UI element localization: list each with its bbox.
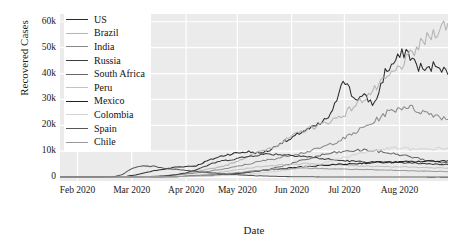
chart-legend: USBrazilIndiaRussiaSouth AfricaPeruMexic… [64,10,151,152]
legend-color-swatch [66,74,88,75]
legend-item[interactable]: Mexico [66,95,145,109]
legend-item[interactable]: Chile [66,135,145,149]
legend-item-label: Peru [94,83,112,93]
legend-color-swatch [66,19,88,20]
x-tick-label: Feb 2020 [60,185,96,195]
x-tick-label: Mar 2020 [113,185,150,195]
legend-color-swatch [66,60,88,61]
legend-item[interactable]: Peru [66,81,145,95]
y-tick-label: 0 [22,172,56,182]
x-tick-label: Jun 2020 [274,185,309,195]
x-tick-label: May 2020 [218,185,257,195]
legend-color-swatch [66,46,88,47]
y-tick-label: 60k [22,17,56,27]
x-tick-label: Apr 2020 [168,185,204,195]
legend-item-label: Chile [94,137,116,147]
legend-item[interactable]: Brazil [66,27,145,41]
legend-color-swatch [66,128,88,129]
legend-item-label: Russia [94,56,121,66]
legend-item[interactable]: Spain [66,122,145,136]
legend-item[interactable]: Russia [66,54,145,68]
x-tick-label: Jul 2020 [328,185,360,195]
legend-color-swatch [66,87,88,88]
legend-item-label: Mexico [94,96,125,106]
legend-item[interactable]: South Africa [66,67,145,81]
y-axis-tick-labels: 010k20k30k40k50k60k [16,0,56,246]
legend-item-label: India [94,42,115,52]
legend-item-label: South Africa [94,69,145,79]
y-tick-label: 30k [22,94,56,104]
y-tick-label: 20k [22,120,56,130]
legend-item-label: Spain [94,124,117,134]
x-tick-label: Aug 2020 [381,185,419,195]
legend-item-label: Brazil [94,28,118,38]
x-axis-label: Date [60,224,448,236]
legend-color-swatch [66,114,88,115]
legend-color-swatch [66,101,88,102]
legend-item[interactable]: India [66,40,145,54]
legend-color-swatch [66,33,88,34]
legend-color-swatch [66,142,88,143]
legend-item-label: Colombia [94,110,133,120]
x-axis-tick-labels: Feb 2020Mar 2020Apr 2020May 2020Jun 2020… [0,185,459,205]
y-tick-label: 10k [22,146,56,156]
y-tick-label: 50k [22,43,56,53]
legend-item[interactable]: Colombia [66,108,145,122]
legend-item[interactable]: US [66,13,145,27]
chart-figure: Recovered Cases Date 010k20k30k40k50k60k… [0,0,459,246]
y-tick-label: 40k [22,69,56,79]
legend-item-label: US [94,15,107,25]
